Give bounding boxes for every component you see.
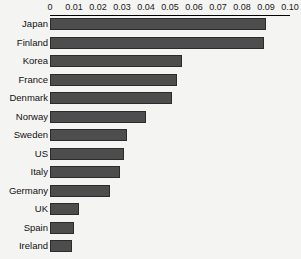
x-axis-tick-label: 0.01	[65, 2, 83, 13]
bar	[50, 166, 120, 178]
bar-row: Ireland	[0, 238, 301, 257]
bar-row: France	[0, 72, 301, 91]
bar-row: Finland	[0, 35, 301, 54]
x-axis-tick-label: 0.03	[113, 2, 131, 13]
x-axis-tick-label: 0.07	[209, 2, 227, 13]
bar-chart: 00.010.020.030.040.050.060.070.080.090.1…	[0, 0, 301, 259]
category-label: Finland	[17, 37, 48, 49]
category-label: Norway	[16, 111, 48, 123]
bar	[50, 185, 110, 197]
bar-row: Italy	[0, 164, 301, 183]
bar-row: UK	[0, 201, 301, 220]
x-axis-tick-label: 0	[47, 2, 52, 13]
bar	[50, 111, 146, 123]
bar-row: Norway	[0, 109, 301, 128]
bar	[50, 92, 172, 104]
x-axis-tick-label: 0.05	[161, 2, 179, 13]
bar	[50, 129, 127, 141]
category-label: Germany	[9, 185, 48, 197]
bar	[50, 222, 74, 234]
x-axis-tick-label: 0.10	[281, 2, 299, 13]
category-label: Korea	[23, 55, 48, 67]
x-axis-tick-label: 0.04	[137, 2, 155, 13]
category-label: UK	[35, 203, 48, 215]
bar	[50, 240, 72, 252]
bar-row: Denmark	[0, 90, 301, 109]
bar-rows: JapanFinlandKoreaFranceDenmarkNorwaySwed…	[0, 16, 301, 257]
category-label: Denmark	[9, 92, 48, 104]
x-axis-tick-label: 0.06	[185, 2, 203, 13]
category-label: Japan	[22, 18, 48, 30]
bar	[50, 148, 124, 160]
bar-row: Germany	[0, 183, 301, 202]
category-label: Italy	[31, 166, 48, 178]
x-axis-tick-label: 0.09	[257, 2, 275, 13]
category-label: France	[18, 74, 48, 86]
category-label: Ireland	[19, 240, 48, 252]
category-label: US	[35, 148, 48, 160]
bar-row: Sweden	[0, 127, 301, 146]
bar	[50, 55, 182, 67]
bar	[50, 74, 177, 86]
bar-row: Japan	[0, 16, 301, 35]
bar-row: Korea	[0, 53, 301, 72]
category-label: Spain	[24, 222, 48, 234]
x-axis-tick-label: 0.08	[233, 2, 251, 13]
bar	[50, 203, 79, 215]
bar-row: Spain	[0, 220, 301, 239]
x-axis-tick-label: 0.02	[89, 2, 107, 13]
bar	[50, 18, 266, 30]
bar-row: US	[0, 146, 301, 165]
bar	[50, 37, 264, 49]
category-label: Sweden	[14, 129, 48, 141]
